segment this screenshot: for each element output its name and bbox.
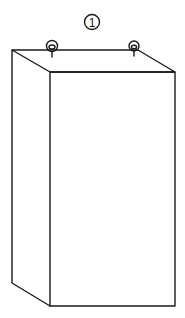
box-left-face — [12, 50, 50, 306]
box-top-face — [12, 50, 175, 72]
box-front-face — [50, 72, 175, 306]
box-diagram: 1 — [0, 0, 185, 318]
eye-bolt-left — [47, 41, 58, 58]
box — [12, 50, 175, 306]
eye-bolt-right — [129, 41, 139, 56]
label-number: 1 — [89, 16, 96, 30]
figure-label: 1 — [85, 15, 100, 30]
